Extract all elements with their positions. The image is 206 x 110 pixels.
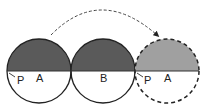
circle-a-top-half (7, 39, 71, 71)
label-p-end: P (144, 74, 151, 86)
circle-a-end-top-half (135, 39, 199, 71)
circle-b-top-half (71, 39, 135, 71)
dashed-arc-arrow (51, 10, 157, 35)
label-a-end: A (164, 72, 172, 84)
point-p-end-tick (137, 73, 143, 77)
label-p-start: P (17, 74, 24, 86)
label-a-start: A (36, 72, 44, 84)
rolling-circles-diagram: P A B P A (0, 0, 206, 110)
point-p-tick (9, 73, 15, 77)
label-b: B (100, 72, 107, 84)
